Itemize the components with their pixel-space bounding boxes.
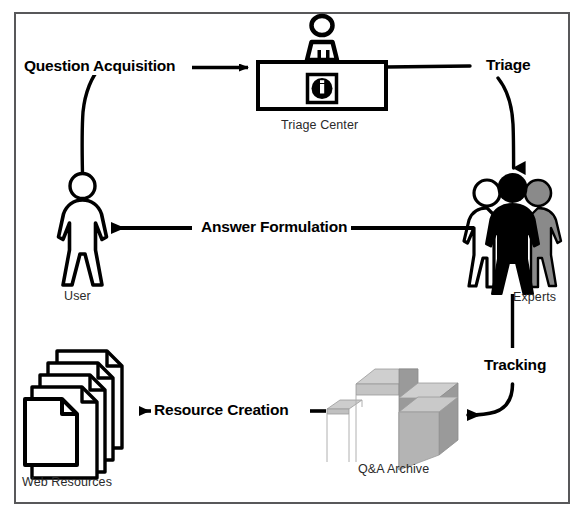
person-icon — [59, 174, 107, 286]
edge-label-triage: Triage — [486, 56, 530, 74]
node-label-experts: Experts — [513, 290, 556, 304]
archive-small-step — [327, 400, 362, 462]
edge-label-tracking: Tracking — [481, 356, 549, 374]
diagram-canvas — [0, 0, 583, 519]
node-label-user: User — [64, 289, 91, 303]
edge-label-question-acquisition: Question Acquisition — [24, 57, 175, 75]
screenshot-root: Question Acquisition Triage Answer Formu… — [0, 0, 583, 519]
edge-label-resource-creation: Resource Creation — [151, 401, 291, 419]
node-label-qa-archive: Q&A Archive — [358, 462, 429, 476]
archive-main-blocks — [356, 369, 458, 470]
three-people-icon — [464, 173, 561, 294]
edge-label-answer-formulation: Answer Formulation — [197, 218, 351, 236]
user-to-question-curve — [82, 68, 100, 174]
node-label-triage-center: Triage Center — [281, 118, 358, 132]
database-blocks-icon — [327, 369, 458, 470]
node-label-web-resources: Web Resources — [22, 475, 112, 489]
triage-arrow — [386, 66, 514, 168]
information-desk-icon — [258, 16, 386, 109]
document-stack-icon — [25, 351, 122, 478]
tracking-arrow — [468, 294, 513, 415]
